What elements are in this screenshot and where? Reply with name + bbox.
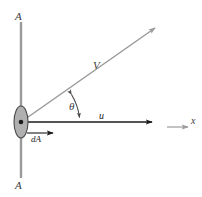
velocity-vector-label: V <box>93 60 100 71</box>
section-label-top: A <box>15 11 22 22</box>
axial-velocity-label: u <box>99 111 104 121</box>
x-axis-label: x <box>191 116 195 126</box>
vector-diagram-figure: A A V u x θ dA <box>0 0 202 197</box>
origin-point <box>19 120 24 125</box>
diagram-canvas <box>0 0 202 197</box>
angle-label: θ <box>69 101 74 112</box>
area-element-label: dA <box>31 135 41 144</box>
section-label-bottom: A <box>15 180 22 191</box>
velocity-vector-arrow <box>21 28 155 122</box>
